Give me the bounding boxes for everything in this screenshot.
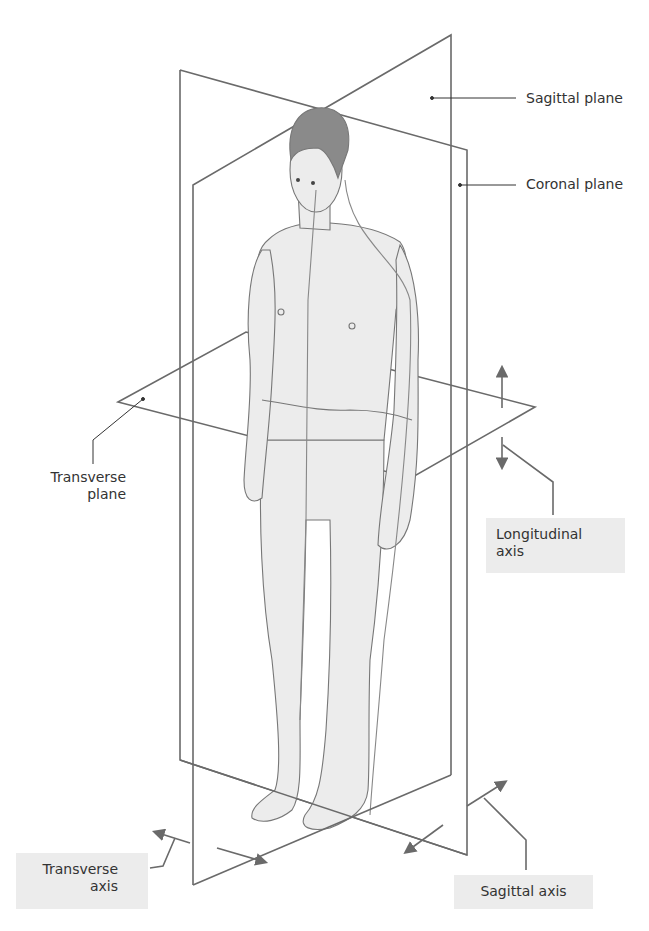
transverse-axis-arrow (150, 832, 265, 868)
anatomy-diagram (0, 0, 649, 931)
human-figure (244, 108, 418, 830)
sagittal-axis-label: Sagittal axis (454, 875, 593, 909)
transverse-axis-label: Transverse axis (16, 853, 148, 909)
longitudinal-axis-label-line2: axis (496, 543, 615, 560)
transverse-plane-label-line1: Transverse (46, 469, 126, 486)
transverse-axis-label-line2: axis (26, 878, 118, 895)
transverse-plane-label: Transverse plane (46, 469, 126, 503)
sagittal-plane-label: Sagittal plane (526, 90, 623, 107)
coronal-plane-label: Coronal plane (526, 176, 623, 193)
sagittal-axis-arrow (406, 782, 526, 870)
transverse-axis-label-line1: Transverse (26, 861, 118, 878)
transverse-plane-label-line2: plane (46, 486, 126, 503)
longitudinal-axis-label-line1: Longitudinal (496, 526, 615, 543)
longitudinal-axis-arrow (502, 368, 553, 515)
longitudinal-axis-label: Longitudinal axis (486, 518, 625, 573)
